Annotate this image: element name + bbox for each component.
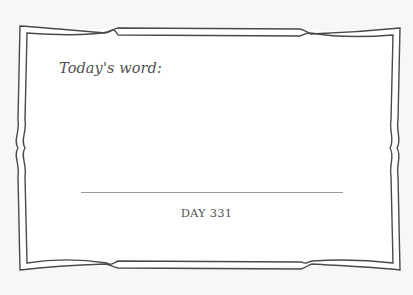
answer-line [81, 192, 343, 193]
word-of-the-day-card: Today's word: DAY 331 [0, 0, 413, 295]
todays-word-label: Today's word: [59, 60, 162, 76]
ornamental-frame-border [0, 0, 413, 295]
day-number-label: DAY 331 [0, 206, 413, 220]
